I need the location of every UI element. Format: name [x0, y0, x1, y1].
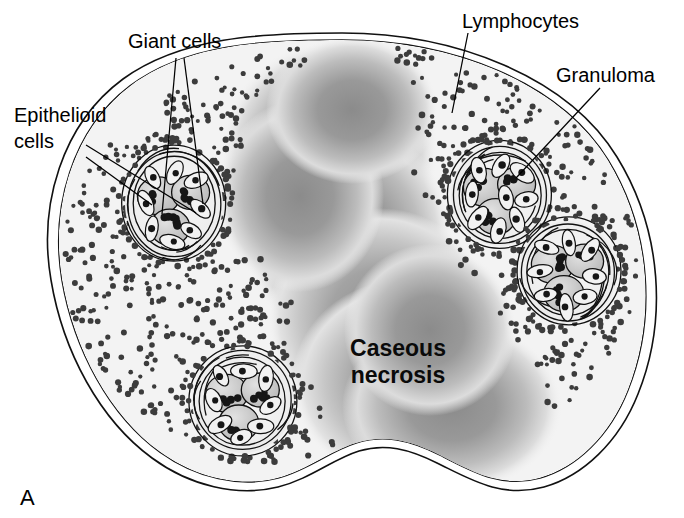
perigranuloma-lymphocyte [441, 211, 446, 216]
perigranuloma-lymphocyte [242, 453, 248, 459]
label-caseous-necrosis-line1: Caseous [350, 335, 446, 361]
perigranuloma-lymphocyte [187, 137, 193, 143]
perigranuloma-lymphocyte [283, 354, 288, 359]
epithelioid-cell-nucleus [171, 238, 177, 244]
perigranuloma-lymphocyte [617, 287, 622, 292]
perigranuloma-lymphocyte [480, 247, 485, 252]
perigranuloma-lymphocyte [456, 150, 462, 156]
perigranuloma-lymphocyte [115, 209, 120, 214]
epithelioid-cell-nucleus [217, 421, 224, 428]
perigranuloma-lymphocyte [618, 244, 624, 250]
perigranuloma-lymphocyte [169, 135, 175, 141]
perigranuloma-lymphocyte [135, 150, 141, 156]
perigranuloma-lymphocyte [511, 287, 516, 292]
perigranuloma-lymphocyte [517, 136, 523, 142]
perigranuloma-lymphocyte [484, 139, 490, 145]
perigranuloma-lymphocyte [597, 217, 601, 221]
perigranuloma-lymphocyte [199, 255, 204, 260]
epithelioid-cell-nucleus [237, 435, 243, 441]
perigranuloma-lymphocyte [211, 242, 216, 247]
perigranuloma-lymphocyte [162, 137, 168, 143]
perigranuloma-lymphocyte [440, 177, 445, 182]
epithelioid-cell-nucleus [192, 177, 198, 183]
perigranuloma-lymphocyte [116, 193, 122, 199]
epithelioid-cell-nucleus [173, 170, 179, 176]
perigranuloma-lymphocyte [547, 325, 553, 331]
perigranuloma-lymphocyte [298, 391, 303, 396]
epithelioid-cell-nucleus [588, 247, 595, 254]
perigranuloma-lymphocyte [292, 424, 298, 430]
perigranuloma-lymphocyte [516, 240, 521, 245]
epithelioid-cell-nucleus [476, 167, 483, 174]
perigranuloma-lymphocyte [152, 145, 158, 151]
perigranuloma-lymphocyte [261, 458, 268, 465]
perigranuloma-lymphocyte [223, 176, 229, 182]
epithelioid-cell-nucleus [543, 244, 550, 251]
epithelioid-cell-nucleus [148, 225, 155, 232]
perigranuloma-lymphocyte [239, 337, 246, 344]
perigranuloma-lymphocyte [510, 247, 517, 254]
epithelioid-cell-nucleus [523, 196, 530, 203]
perigranuloma-lymphocyte [183, 378, 188, 383]
perigranuloma-lymphocyte [224, 183, 231, 190]
perigranuloma-lymphocyte [617, 252, 623, 258]
giant-cell-nucleus [234, 394, 242, 402]
perigranuloma-lymphocyte [494, 131, 499, 136]
perigranuloma-lymphocyte [187, 267, 192, 272]
perigranuloma-lymphocyte [622, 263, 628, 269]
perigranuloma-lymphocyte [179, 395, 185, 401]
perigranuloma-lymphocyte [469, 245, 473, 249]
perigranuloma-lymphocyte [551, 215, 557, 221]
epithelioid-cell-nucleus [496, 228, 503, 235]
epithelioid-cell-nucleus [537, 269, 543, 275]
giant-cell-nucleus [180, 187, 187, 194]
perigranuloma-lymphocyte [511, 267, 517, 273]
perigranuloma-lymphocyte [137, 252, 141, 256]
perigranuloma-lymphocyte [447, 161, 453, 167]
label-granuloma: Granuloma [556, 64, 656, 86]
perigranuloma-lymphocyte [242, 459, 247, 464]
perigranuloma-lymphocyte [546, 162, 551, 167]
perigranuloma-lymphocyte [214, 160, 219, 165]
perigranuloma-lymphocyte [598, 226, 604, 232]
giant-cell-nucleus [173, 221, 181, 229]
perigranuloma-lymphocyte [211, 248, 217, 254]
giant-cell-nucleus [555, 265, 563, 273]
perigranuloma-lymphocyte [480, 252, 485, 257]
perigranuloma-lymphocyte [280, 439, 286, 445]
epithelioid-cell-nucleus [475, 214, 481, 220]
perigranuloma-lymphocyte [193, 363, 198, 368]
perigranuloma-lymphocyte [201, 356, 207, 362]
label-lymphocytes: Lymphocytes [462, 10, 579, 32]
perigranuloma-lymphocyte [220, 227, 226, 233]
epithelioid-cell-nucleus [143, 201, 150, 208]
perigranuloma-lymphocyte [218, 455, 224, 461]
perigranuloma-lymphocyte [229, 195, 234, 200]
epithelioid-cell-nucleus [593, 273, 600, 280]
perigranuloma-lymphocyte [523, 226, 528, 231]
perigranuloma-lymphocyte [187, 383, 193, 389]
epithelioid-cell-nucleus [212, 397, 218, 403]
perigranuloma-lymphocyte [465, 236, 471, 242]
epithelioid-cell-nucleus [512, 215, 519, 222]
perigranuloma-lymphocyte [620, 278, 627, 285]
perigranuloma-lymphocyte [496, 253, 502, 259]
perigranuloma-lymphocyte [479, 136, 485, 142]
perigranuloma-lymphocyte [116, 219, 122, 225]
perigranuloma-lymphocyte [191, 437, 197, 443]
perigranuloma-lymphocyte [454, 228, 459, 233]
perigranuloma-lymphocyte [448, 209, 454, 215]
perigranuloma-lymphocyte [609, 310, 614, 315]
epithelioid-cell-nucleus [150, 174, 157, 181]
perigranuloma-lymphocyte [190, 372, 196, 378]
perigranuloma-lymphocyte [590, 321, 597, 328]
perigranuloma-lymphocyte [445, 175, 450, 180]
perigranuloma-lymphocyte [468, 139, 473, 144]
label-epithelioid-cells-line2: cells [14, 130, 54, 152]
perigranuloma-lymphocyte [244, 343, 250, 349]
perigranuloma-lymphocyte [295, 412, 301, 418]
perigranuloma-lymphocyte [118, 229, 123, 234]
epithelioid-cell-nucleus [562, 304, 569, 311]
perigranuloma-lymphocyte [512, 279, 518, 285]
perigranuloma-lymphocyte [573, 213, 578, 218]
